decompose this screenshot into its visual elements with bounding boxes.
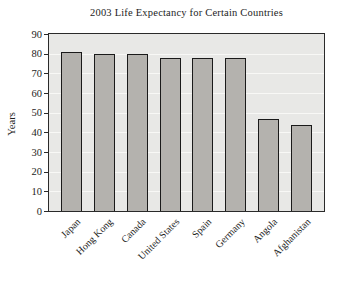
y-tick-mark	[44, 113, 48, 114]
bar-angola	[258, 119, 279, 211]
gridline	[49, 113, 324, 114]
y-tick-mark	[44, 54, 48, 55]
x-tick-label: Japan	[58, 216, 82, 240]
y-tick-label: 10	[0, 186, 42, 197]
y-tick-label: 60	[0, 88, 42, 99]
y-tick-label: 0	[0, 206, 42, 217]
plot-area	[48, 33, 325, 212]
gridline	[49, 172, 324, 173]
y-tick-mark	[44, 191, 48, 192]
bar-spain	[192, 58, 213, 211]
gridline	[49, 73, 324, 74]
chart-title: 2003 Life Expectancy for Certain Countri…	[48, 7, 325, 18]
x-tick-label: Spain	[190, 216, 214, 240]
gridline	[49, 191, 324, 192]
y-tick-label: 50	[0, 107, 42, 118]
y-tick-label: 70	[0, 68, 42, 79]
y-tick-mark	[44, 93, 48, 94]
bar-united-states	[160, 58, 181, 211]
bar-canada	[127, 54, 148, 211]
bar-chart: 2003 Life Expectancy for Certain Countri…	[0, 0, 339, 286]
y-tick-label: 30	[0, 147, 42, 158]
bar-hong-kong	[94, 54, 115, 211]
y-tick-label: 90	[0, 29, 42, 40]
y-tick-mark	[44, 172, 48, 173]
x-tick-label: Canada	[119, 216, 148, 245]
y-tick-mark	[44, 152, 48, 153]
bar-afghanistan	[291, 125, 312, 212]
gridline	[49, 132, 324, 133]
gridline	[49, 54, 324, 55]
y-tick-label: 40	[0, 127, 42, 138]
y-tick-label: 20	[0, 166, 42, 177]
y-tick-label: 80	[0, 48, 42, 59]
x-tick-label: Angola	[251, 216, 280, 245]
bar-germany	[225, 58, 246, 211]
gridline	[49, 152, 324, 153]
y-tick-mark	[44, 73, 48, 74]
gridline	[49, 93, 324, 94]
y-tick-mark	[44, 34, 48, 35]
x-tick-label: Germany	[212, 216, 246, 250]
y-tick-mark	[44, 132, 48, 133]
y-tick-mark	[44, 211, 48, 212]
bar-japan	[61, 52, 82, 211]
